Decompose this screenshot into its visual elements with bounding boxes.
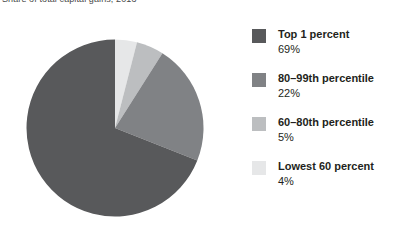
chart-title: Share of total capital gains, 2013	[2, 0, 137, 5]
legend-label: 60–80th percentile	[278, 116, 408, 129]
legend-value: 22%	[278, 86, 408, 101]
legend-label: Top 1 percent	[278, 28, 408, 41]
legend-item-60-80th-percentile[interactable]: 60–80th percentile5%	[252, 116, 408, 146]
legend-swatch-lowest-60-percent	[252, 161, 266, 175]
legend-value: 4%	[278, 174, 408, 189]
legend-value: 5%	[278, 130, 408, 145]
pie-svg	[26, 39, 204, 217]
legend-label: Lowest 60 percent	[278, 160, 408, 173]
legend-item-lowest-60-percent[interactable]: Lowest 60 percent4%	[252, 160, 408, 190]
pie-plot-area	[26, 39, 204, 217]
legend-swatch-top-1-percent	[252, 29, 266, 43]
legend-swatch-80-99th-percentile	[252, 73, 266, 87]
legend-item-top-1-percent[interactable]: Top 1 percent69%	[252, 28, 408, 58]
legend-label: 80–99th percentile	[278, 72, 408, 85]
pie-slice-group	[27, 40, 204, 217]
pie-chart-figure: Share of total capital gains, 2013 Top 1…	[0, 0, 411, 241]
legend-value: 69%	[278, 42, 408, 57]
legend-item-80-99th-percentile[interactable]: 80–99th percentile22%	[252, 72, 408, 102]
legend-swatch-60-80th-percentile	[252, 117, 266, 131]
chart-legend: Top 1 percent69%80–99th percentile22%60–…	[252, 28, 408, 190]
